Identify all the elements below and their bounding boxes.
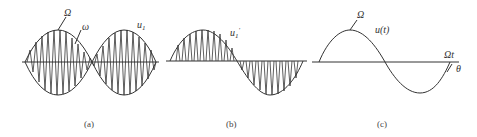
panel-b-caption: (b) [226, 120, 237, 129]
panel-a-carrier-label: ω [82, 22, 89, 32]
panel-c-caption: (c) [377, 120, 387, 129]
panel-a-carrier-leader [75, 30, 81, 44]
panel-c-omega-leader [350, 20, 357, 30]
panel-a-signal-subscript: 1 [142, 24, 146, 32]
panel-a-omega-leader [58, 17, 66, 30]
panel-a-signal-label: u1 [137, 20, 146, 32]
panel-c-phase-label: θ [456, 64, 461, 74]
panel-c-signal-label: u(t) [375, 25, 389, 35]
panel-b-signal-label: u1′ [230, 27, 240, 40]
panel-c-axis-label: Ωt [444, 50, 454, 60]
panel-b-signal-prime: ′ [239, 26, 241, 34]
panel-a-envelope-label: Ω [64, 8, 71, 18]
diagram-canvas [0, 0, 477, 137]
panel-c-frequency-label: Ω [357, 10, 364, 20]
panel-a-caption: (a) [84, 120, 94, 129]
